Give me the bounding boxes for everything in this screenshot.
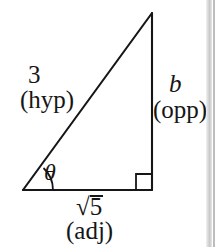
hypotenuse-role-label: (hyp) xyxy=(20,87,74,112)
adjacent-length-label: √5 xyxy=(76,193,102,219)
triangle-figure: 3 (hyp) b (opp) √5 (adj) θ xyxy=(0,0,220,247)
triangle-svg xyxy=(0,0,220,247)
opposite-role-label: (opp) xyxy=(153,97,207,122)
theta-angle-label: θ xyxy=(44,160,56,184)
page-edge-shadow xyxy=(206,0,212,247)
hypotenuse-length-label: 3 xyxy=(28,62,41,87)
adjacent-role-label: (adj) xyxy=(66,218,113,243)
page-edge-line xyxy=(213,0,215,247)
radicand-value: 5 xyxy=(90,193,103,219)
right-angle-marker xyxy=(136,174,152,190)
opposite-length-label: b xyxy=(169,71,182,96)
radical-sign-icon: √ xyxy=(76,193,90,220)
